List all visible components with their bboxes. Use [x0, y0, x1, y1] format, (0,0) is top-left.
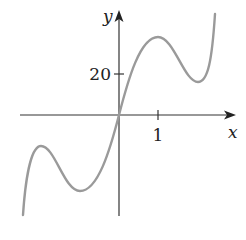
- function-graph: 20 1 x y: [0, 0, 246, 240]
- y-tick-label: 20: [89, 64, 111, 84]
- y-axis-label: y: [102, 6, 113, 26]
- x-axis-label: x: [228, 122, 238, 142]
- x-tick-label: 1: [153, 125, 164, 145]
